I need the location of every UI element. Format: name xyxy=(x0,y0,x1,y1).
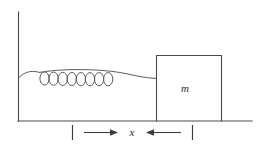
block-outline xyxy=(157,56,222,122)
spring-coil xyxy=(95,73,104,86)
spring-left-connector xyxy=(19,71,40,77)
spring-coil xyxy=(67,72,76,85)
arrow-right-icon xyxy=(110,129,118,135)
spring-coil xyxy=(85,73,94,86)
spring-coils xyxy=(40,72,113,86)
spring-coil xyxy=(58,72,67,85)
figure-canvas: m x xyxy=(0,0,261,148)
displacement-label: x xyxy=(129,126,135,138)
arrow-left-icon xyxy=(146,129,154,135)
mass-label: m xyxy=(181,82,189,94)
spring-coil xyxy=(49,72,58,85)
spring-coil xyxy=(76,73,85,86)
physics-figure: m x xyxy=(0,0,261,148)
spring-coil xyxy=(40,72,49,85)
spring-coil xyxy=(104,73,113,86)
